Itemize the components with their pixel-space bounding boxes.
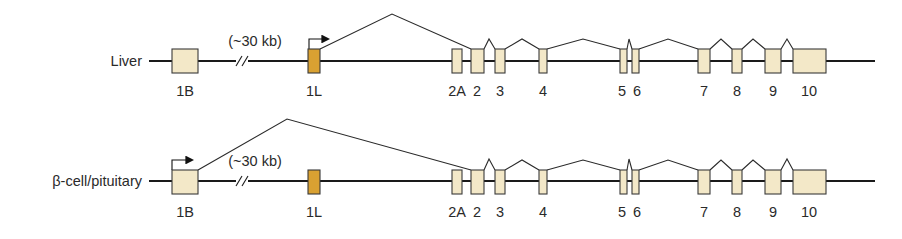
splice-line bbox=[505, 160, 539, 170]
exon-label: 3 bbox=[496, 83, 504, 99]
break-mark-icon bbox=[236, 55, 248, 67]
exon-label: 2A bbox=[448, 204, 466, 220]
exon-label: 7 bbox=[700, 83, 708, 99]
splice-line bbox=[627, 39, 632, 49]
exon-2A bbox=[452, 49, 462, 73]
exon-label: 6 bbox=[633, 204, 641, 220]
exon-5 bbox=[620, 170, 627, 194]
exon-label: 8 bbox=[733, 83, 741, 99]
exon-labels: 1B 1L 2A 2 3 4 5 6 7 8 9 10 bbox=[176, 204, 817, 220]
track-beta-cell-pituitary: β-cell/pituitary (~30 kb) bbox=[52, 119, 875, 220]
exon-8 bbox=[732, 170, 742, 194]
exon-1B bbox=[172, 49, 198, 73]
exon-2A bbox=[452, 170, 462, 194]
exon-label: 9 bbox=[769, 83, 777, 99]
exon-label: 2 bbox=[473, 204, 481, 220]
splice-line bbox=[505, 39, 539, 49]
splice-line bbox=[781, 159, 793, 170]
exon-label: 2 bbox=[473, 83, 481, 99]
splice-line bbox=[627, 159, 632, 170]
splice-line bbox=[547, 160, 620, 170]
exon-3 bbox=[495, 170, 505, 194]
exon-labels: 1B 1L 2A 2 3 4 5 6 7 8 9 10 bbox=[176, 83, 817, 99]
exon-7 bbox=[698, 49, 710, 73]
exon-7 bbox=[698, 170, 710, 194]
exon-6 bbox=[632, 49, 639, 73]
exon-label: 10 bbox=[801, 83, 817, 99]
exon-label: 9 bbox=[769, 204, 777, 220]
splice-line bbox=[320, 14, 471, 49]
splice-line bbox=[710, 39, 732, 49]
exon-label: 10 bbox=[801, 204, 817, 220]
splice-line bbox=[639, 39, 698, 49]
exon-label: 1B bbox=[176, 204, 194, 220]
exon-label: 1L bbox=[306, 204, 322, 220]
splice-line bbox=[742, 39, 765, 49]
exon-label: 4 bbox=[539, 204, 547, 220]
exon-4 bbox=[539, 49, 547, 73]
exon-label: 6 bbox=[633, 83, 641, 99]
exon-label: 2A bbox=[448, 83, 466, 99]
splice-line bbox=[742, 160, 765, 170]
track-label-liver: Liver bbox=[111, 53, 143, 69]
exon-3 bbox=[495, 49, 505, 73]
exon-label: 1B bbox=[176, 83, 194, 99]
gene-structure-diagram: Liver (~30 kb) bbox=[0, 0, 902, 239]
exon-2 bbox=[471, 49, 484, 73]
exon-label: 5 bbox=[618, 83, 626, 99]
exon-label: 4 bbox=[539, 83, 547, 99]
splice-line bbox=[710, 160, 732, 170]
promoter-arrow-icon bbox=[172, 160, 192, 170]
exon-2 bbox=[471, 170, 484, 194]
exon-6 bbox=[632, 170, 639, 194]
exon-label: 5 bbox=[618, 204, 626, 220]
exon-label: 7 bbox=[700, 204, 708, 220]
splice-line bbox=[547, 39, 620, 49]
exon-5 bbox=[620, 49, 627, 73]
break-mark-icon bbox=[236, 175, 248, 187]
exon-label: 1L bbox=[306, 83, 322, 99]
splice-line bbox=[484, 159, 495, 170]
track-liver: Liver (~30 kb) bbox=[111, 14, 875, 99]
exon-9 bbox=[765, 170, 781, 194]
track-label-beta-cell-pituitary: β-cell/pituitary bbox=[52, 173, 142, 189]
gap-label: (~30 kb) bbox=[228, 153, 282, 169]
exon-4 bbox=[539, 170, 547, 194]
exon-1B bbox=[172, 170, 198, 194]
promoter-arrow-icon bbox=[309, 39, 328, 49]
exon-1L bbox=[308, 170, 320, 194]
exon-label: 3 bbox=[496, 204, 504, 220]
exon-8 bbox=[732, 49, 742, 73]
exon-10 bbox=[793, 170, 826, 194]
gap-label: (~30 kb) bbox=[228, 33, 282, 49]
splice-line bbox=[781, 39, 793, 49]
exon-1L bbox=[308, 49, 320, 73]
splice-line bbox=[484, 39, 495, 49]
exon-label: 8 bbox=[733, 204, 741, 220]
exon-10 bbox=[793, 49, 826, 73]
exon-9 bbox=[765, 49, 781, 73]
splice-line bbox=[639, 160, 698, 170]
